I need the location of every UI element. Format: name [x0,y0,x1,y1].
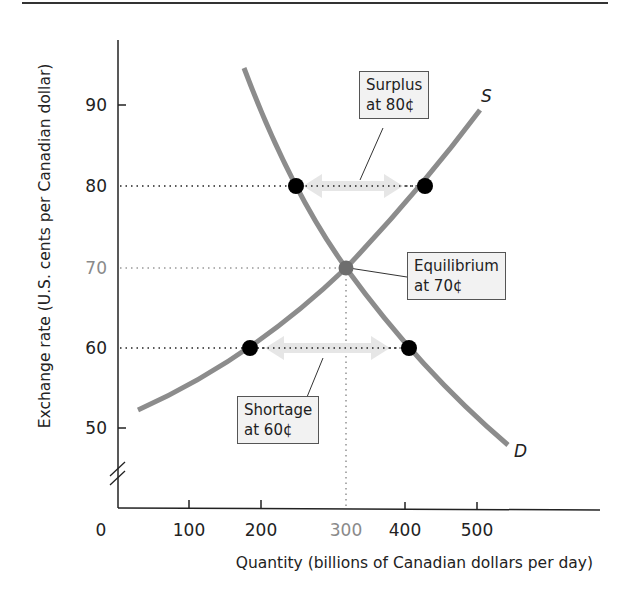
y-tick-50: 50 [85,418,107,438]
y-ticks [118,105,126,428]
shortage-callout: Shortage at 60¢ [237,396,319,444]
x-tick-300: 300 [330,520,362,540]
y-tick-90: 90 [85,95,107,115]
y-tick-80: 80 [85,176,107,196]
x-tick-500: 500 [461,520,493,540]
supply-label: S [481,86,492,106]
equilibrium-callout-line2: at 70¢ [414,276,499,296]
shortage-callout-line1: Shortage [244,400,312,420]
equilibrium-callout-line1: Equilibrium [414,256,499,276]
callout-leaders [307,128,407,397]
x-tick-100: 100 [173,520,205,540]
x-tick-200: 200 [245,520,277,540]
surplus-callout-line1: Surplus [366,75,422,95]
supply-point-80 [417,178,433,194]
supply-point-60 [242,340,258,356]
shortage-arrow-icon [265,336,390,360]
demand-label: D [514,441,527,461]
y-tick-70: 70 [85,258,107,278]
x-tick-400: 400 [389,520,421,540]
shortage-callout-line2: at 60¢ [244,420,312,440]
y-axis-title: Exchange rate (U.S. cents per Canadian d… [36,64,54,429]
chart-canvas: S D 90 80 70 60 50 0 100 200 300 400 500… [0,0,630,593]
equilibrium-callout: Equilibrium at 70¢ [407,252,506,300]
demand-point-60 [401,340,417,356]
x-axis [118,508,600,510]
x-axis-title: Quantity (billions of Canadian dollars p… [236,554,593,572]
equilibrium-point [339,261,354,276]
demand-point-80 [288,178,304,194]
y-tick-60: 60 [85,338,107,358]
surplus-callout: Surplus at 80¢ [359,71,429,119]
x-tick-0: 0 [96,520,107,540]
surplus-callout-line2: at 80¢ [366,95,422,115]
